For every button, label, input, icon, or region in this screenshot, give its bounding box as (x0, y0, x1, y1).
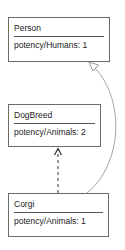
node-divider (14, 123, 95, 124)
hollow-triangle-arrowhead-icon (89, 62, 99, 71)
node-attribute: potency/Animals: 1 (14, 216, 103, 227)
class-node-person[interactable]: Person potency/Humans: 1 (8, 17, 110, 62)
node-divider (14, 212, 103, 213)
node-title: DogBreed (14, 110, 95, 121)
node-title: Person (14, 23, 104, 34)
node-divider (14, 36, 104, 37)
node-attribute: potency/Animals: 2 (14, 127, 95, 138)
class-node-dogbreed[interactable]: DogBreed potency/Animals: 2 (8, 104, 101, 147)
class-node-corgi[interactable]: Corgi potency/Animals: 1 (8, 193, 109, 237)
node-title: Corgi (14, 199, 103, 210)
node-attribute: potency/Humans: 1 (14, 40, 104, 51)
